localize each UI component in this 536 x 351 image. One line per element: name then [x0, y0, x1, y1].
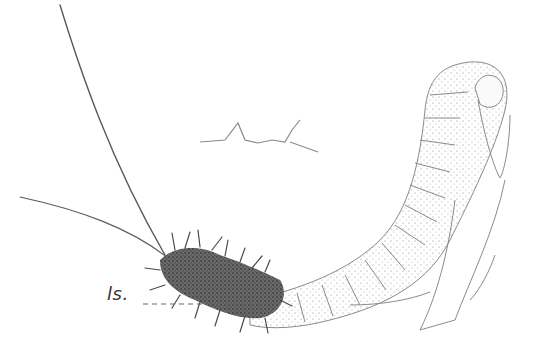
larva-drawing	[0, 0, 536, 351]
sketch-mark	[200, 120, 318, 152]
figure-label-ls: ls.	[107, 283, 129, 304]
filaments	[20, 5, 168, 258]
